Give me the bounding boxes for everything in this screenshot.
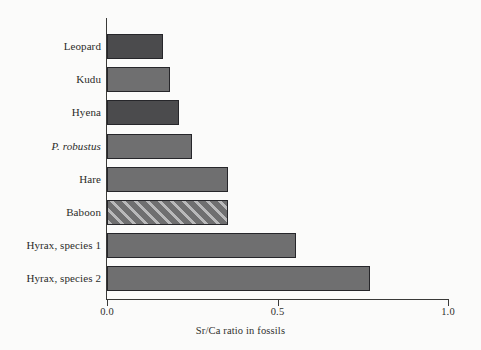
bar-row: Hare bbox=[0, 167, 481, 192]
bar-category-label: Baboon bbox=[0, 206, 101, 218]
bar-category-label: Hyrax, species 1 bbox=[0, 239, 101, 251]
bar-row: Leopard bbox=[0, 34, 481, 59]
bar bbox=[107, 134, 192, 159]
bar-category-label: Hyena bbox=[0, 106, 101, 118]
bar-row: Hyena bbox=[0, 100, 481, 125]
bar-row: Hyrax, species 1 bbox=[0, 233, 481, 258]
bar bbox=[107, 67, 170, 92]
bar bbox=[107, 200, 228, 225]
bar bbox=[107, 100, 179, 125]
bar-category-label: Leopard bbox=[0, 40, 101, 52]
bar-category-label: P. robustus bbox=[0, 140, 101, 152]
x-axis-tick-label: 1.0 bbox=[441, 306, 455, 317]
bar-row: Baboon bbox=[0, 200, 481, 225]
x-axis-tick-label: 0.5 bbox=[271, 306, 285, 317]
x-axis-title: Sr/Ca ratio in fossils bbox=[0, 325, 481, 336]
x-axis-tick-label: 0.0 bbox=[100, 306, 114, 317]
bar bbox=[107, 233, 296, 258]
bar-category-label: Hare bbox=[0, 173, 101, 185]
bar-category-label: Kudu bbox=[0, 73, 101, 85]
bar bbox=[107, 167, 228, 192]
bar-row: Kudu bbox=[0, 67, 481, 92]
bar-chart: LeopardKuduHyenaP. robustusHareBaboonHyr… bbox=[0, 0, 481, 350]
bar bbox=[107, 266, 370, 291]
bar-row: Hyrax, species 2 bbox=[0, 266, 481, 291]
bar-category-label: Hyrax, species 2 bbox=[0, 272, 101, 284]
bar bbox=[107, 34, 163, 59]
bar-row: P. robustus bbox=[0, 134, 481, 159]
